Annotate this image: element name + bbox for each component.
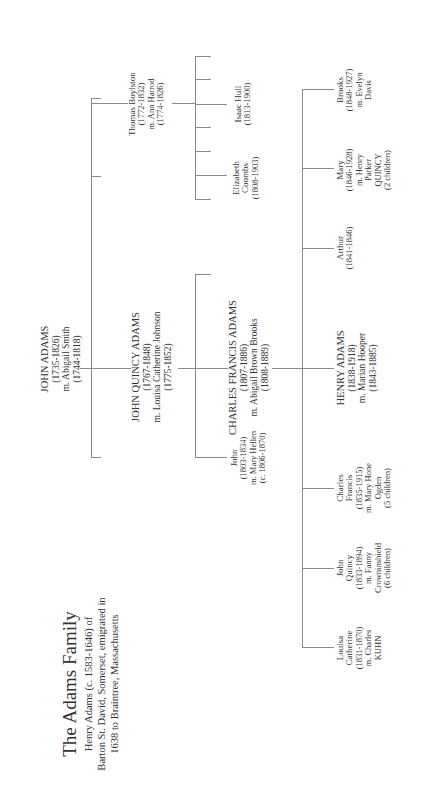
bracket-tick: [302, 368, 334, 369]
bracket-tick: [195, 56, 211, 57]
bracket-tick: [302, 568, 334, 569]
origin-line-3: 1638 to Braintree, Massachusetts: [108, 559, 121, 809]
person-john-adams: JOHN ADAMS (1735-1826) m. Abigail Smith …: [40, 304, 82, 414]
bracket-tick: [302, 89, 334, 90]
bracket-line: [91, 98, 92, 458]
person-isaac-hull: Isaac Hull (1813-1900): [234, 69, 253, 139]
bracket-tick: [195, 79, 211, 80]
bracket-tick: [195, 199, 211, 200]
bracket-tick: [195, 175, 227, 176]
person-elizabeth-coombs: Elizabeth Coombs (1808-1903): [232, 143, 260, 213]
person-john-quincy-adams: JOHN QUINCY ADAMS (1767-1848) m. Louisa …: [131, 297, 173, 437]
connector-line: [178, 368, 195, 369]
family-tree: The Adams Family Henry Adams (c. 1583-16…: [0, 0, 426, 809]
connector-line: [272, 368, 302, 369]
bracket-tick: [195, 127, 211, 128]
person-brooks: Brooks (1848-1927) m. Evelyn Davis: [336, 50, 374, 130]
bracket-tick: [195, 104, 227, 105]
connector-line: [195, 368, 228, 369]
connector-line: [91, 368, 131, 369]
connector-line: [80, 368, 91, 369]
person-louisa-catherine: Louisa Catherine (1831-1870) m. Charles …: [336, 608, 383, 688]
tree-title-block: The Adams Family Henry Adams (c. 1583-16…: [58, 559, 121, 809]
tree-title: The Adams Family: [58, 559, 82, 809]
bracket-line: [302, 90, 303, 648]
person-thomas-boylston: Thomas Boylston (1772-1832) m. Ann Harro…: [128, 59, 166, 149]
bracket-tick: [302, 168, 334, 169]
bracket-tick: [195, 457, 227, 458]
bracket-line: [195, 275, 196, 458]
person-john-quincy: John Quincy (1833-1894) m. Fanny Crownin…: [336, 523, 392, 613]
bracket-tick: [302, 647, 334, 648]
connector-line: [91, 103, 128, 104]
person-henry-adams: HENRY ADAMS (1838-1918) m. Marian Hooper…: [336, 308, 378, 428]
bracket-tick: [91, 457, 101, 458]
bracket-tick: [195, 274, 211, 275]
bracket-tick: [91, 176, 101, 177]
bracket-tick: [91, 98, 101, 99]
bracket-tick: [195, 151, 211, 152]
person-charles-francis: Charles Francis (1835-1915) m. Mary Hone…: [336, 443, 392, 533]
origin-line-1: Henry Adams (c. 1583-1646) of: [82, 559, 95, 809]
person-john: John (1803-1834) m. Mary Hellen (c. 1806…: [230, 418, 268, 498]
connector-line: [172, 103, 195, 104]
person-mary: Mary (1846-1928) m. Henry Parker QUINCY …: [336, 130, 392, 210]
bracket-tick: [302, 488, 334, 489]
bracket-tick: [302, 248, 334, 249]
origin-line-2: Barton St. David, Somerset, emigrated in: [95, 559, 108, 809]
person-arthur: Arthur (1841-1846): [336, 213, 355, 283]
